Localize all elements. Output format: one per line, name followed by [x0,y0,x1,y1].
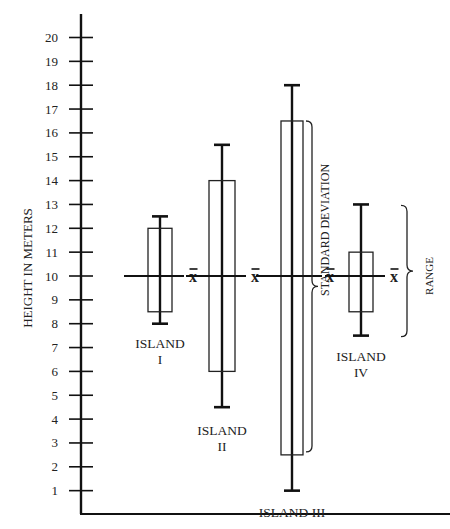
y-tick-label: 14 [45,173,59,188]
y-tick-label: 20 [45,30,58,45]
mean-symbol: x [390,268,398,285]
y-tick-label: 16 [45,125,59,140]
box-island-iv: xISLANDIV [325,204,399,379]
axes: 1234567891011121314151617181920 [45,14,450,514]
box-island-iii: xISLAND III [256,85,335,519]
y-tick-label: 5 [52,388,59,403]
category-label: IV [354,365,368,380]
category-label: ISLAND [197,423,247,438]
sd-brace [306,121,318,452]
category-label: ISLAND [135,336,185,351]
y-tick-label: 4 [52,412,59,427]
y-axis-label: HEIGHT IN METERS [20,208,35,328]
y-tick-label: 15 [45,149,58,164]
category-label: II [218,439,227,454]
y-tick-label: 6 [52,364,59,379]
y-tick-label: 11 [45,245,58,260]
box-chart: 1234567891011121314151617181920 xISLANDI… [0,0,450,529]
y-tick-label: 17 [45,102,59,117]
range-brace [401,205,413,336]
y-tick-label: 13 [45,197,58,212]
category-label: ISLAND [336,349,386,364]
y-tick-label: 9 [52,292,59,307]
box-island-i: xISLANDI [124,216,198,366]
y-tick-label: 12 [45,221,58,236]
y-tick-label: 18 [45,78,58,93]
category-label: I [158,352,163,367]
y-tick-label: 10 [45,269,58,284]
category-label: ISLAND III [259,505,326,520]
y-tick-label: 19 [45,54,58,69]
standard-deviation-label: STANDARD DEVIATION [318,164,332,296]
annotations: STANDARD DEVIATIONRANGE [306,121,435,452]
y-tick-label: 8 [52,316,59,331]
y-tick-label: 2 [52,459,59,474]
range-label: RANGE [423,257,435,295]
y-tick-label: 1 [52,483,59,498]
y-tick-label: 3 [52,435,59,450]
y-tick-label: 7 [52,340,59,355]
boxes: xISLANDIxISLANDIIxISLAND IIIxISLANDIV [124,85,399,519]
box-island-ii: xISLANDII [186,145,260,454]
